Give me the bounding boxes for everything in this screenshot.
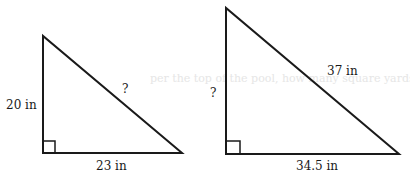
triangle-left: 20 in 23 in ? bbox=[6, 36, 182, 173]
label-hypotenuse: ? bbox=[122, 82, 128, 96]
right-angle-marker bbox=[43, 141, 55, 153]
label-vertical-leg: 20 in bbox=[6, 98, 37, 112]
triangle-left-shape bbox=[43, 36, 182, 153]
triangle-right: ? 34.5 in 37 in bbox=[210, 8, 399, 173]
label-horizontal-leg: 23 in bbox=[96, 159, 127, 173]
right-angle-marker bbox=[226, 141, 240, 154]
label-horizontal-leg: 34.5 in bbox=[296, 159, 338, 173]
triangle-right-shape bbox=[226, 8, 399, 154]
label-hypotenuse: 37 in bbox=[327, 64, 358, 78]
label-vertical-leg: ? bbox=[210, 86, 216, 100]
